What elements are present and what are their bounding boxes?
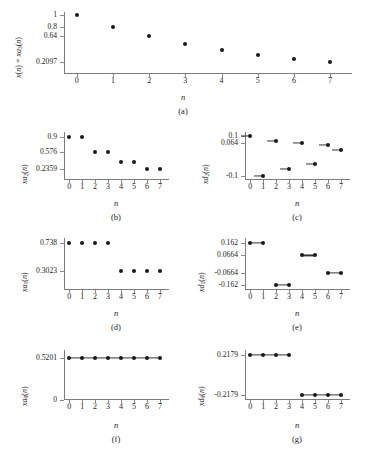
panel-c-y-axis xyxy=(245,132,246,180)
panel-d-datapoint-5 xyxy=(132,269,136,273)
panel-a-datapoint-6 xyxy=(292,57,296,61)
panel-f-xticklabel-7: 7 xyxy=(158,403,162,411)
panel-e-ytick-3 xyxy=(241,285,245,286)
panel-g-datapoint-7 xyxy=(339,393,343,397)
panel-b-datapoint-2 xyxy=(93,150,97,154)
panel-g-ytick-0 xyxy=(241,355,245,356)
panel-b-ytick-0 xyxy=(60,137,64,138)
panel-f-xticklabel-0: 0 xyxy=(67,403,71,411)
panel-e-datapoint-1 xyxy=(261,241,265,245)
panel-c-plot: 012345670.10.064-0.1 xyxy=(245,132,350,180)
panel-d-yticklabel-0: 0.738 xyxy=(40,239,57,247)
panel-e-xticklabel-3: 3 xyxy=(287,293,291,301)
panel-a-datapoint-3 xyxy=(183,42,187,46)
panel-c-xticklabel-2: 2 xyxy=(274,183,278,191)
panel-b-xticklabel-5: 5 xyxy=(132,183,136,191)
panel-e-yticklabel-0: 0.162 xyxy=(221,239,238,247)
panel-g-xticklabel-2: 2 xyxy=(274,403,278,411)
panel-e-xticklabel-0: 0 xyxy=(248,293,252,301)
panel-a-yticklabel-3: 0.2097 xyxy=(36,58,57,66)
panel-c-xticklabel-3: 3 xyxy=(287,183,291,191)
panel-b-datapoint-7 xyxy=(158,167,162,171)
panel-d-datapoint-2 xyxy=(93,241,97,245)
panel-f-datapoint-7 xyxy=(158,356,162,360)
panel-f-xticklabel-4: 4 xyxy=(119,403,123,411)
panel-e: xd1(n) 012345670.1620.0664-0.0664-0.162 … xyxy=(183,230,366,334)
panel-f-yticklabel-0: 0.5201 xyxy=(36,354,57,362)
panel-b: xa2(n) 012345670.90.5760.2359 n (b) xyxy=(0,124,183,224)
panel-d-y-axis xyxy=(64,238,65,290)
panel-g-ytick-1 xyxy=(241,395,245,396)
panel-d-x-axis xyxy=(64,289,169,290)
panel-f-datapoint-3 xyxy=(106,356,110,360)
panel-g-xticklabel-3: 3 xyxy=(287,403,291,411)
panel-b-y-title: xa2(n) xyxy=(20,164,29,184)
panel-g-y-axis xyxy=(245,350,246,400)
panel-a-ytick-3 xyxy=(60,62,64,63)
panel-a-xticklabel-0: 0 xyxy=(75,77,79,85)
panel-c-datapoint-0 xyxy=(248,134,252,138)
panel-a-datapoint-5 xyxy=(256,53,260,57)
panel-c-xticklabel-5: 5 xyxy=(313,183,317,191)
panel-d-y-title: xa1(n) xyxy=(20,272,29,292)
panel-g-datapoint-6 xyxy=(326,393,330,397)
panel-f-datapoint-5 xyxy=(132,356,136,360)
panel-d-xticklabel-6: 6 xyxy=(145,293,149,301)
panel-e-xticklabel-7: 7 xyxy=(339,293,343,301)
panel-e-plot: 012345670.1620.0664-0.0664-0.162 xyxy=(245,238,350,290)
panel-a-ytick-1 xyxy=(60,27,64,28)
panel-c: xd2(n) 012345670.10.064-0.1 n (c) xyxy=(183,124,366,224)
panel-b-plot: 012345670.90.5760.2359 xyxy=(64,132,169,180)
panel-g-datapoint-5 xyxy=(313,393,317,397)
panel-g-yticklabel-1: -0.2179 xyxy=(215,391,238,399)
panel-d-ytick-1 xyxy=(60,271,64,272)
panel-c-y-title: xd2(n) xyxy=(201,164,210,184)
panel-g-xticklabel-1: 1 xyxy=(261,403,265,411)
panel-g-yticklabel-0: 0.2179 xyxy=(217,351,238,359)
panel-b-xticklabel-0: 0 xyxy=(67,183,71,191)
panel-e-datapoint-5 xyxy=(313,253,317,257)
panel-e-xticklabel-6: 6 xyxy=(326,293,330,301)
panel-g-datapoint-2 xyxy=(274,353,278,357)
panel-e-ytick-1 xyxy=(241,255,245,256)
panel-b-datapoint-0 xyxy=(67,135,71,139)
panel-d-datapoint-4 xyxy=(119,269,123,273)
panel-a-xticklabel-3: 3 xyxy=(183,77,187,85)
panel-d-datapoint-3 xyxy=(106,241,110,245)
panel-c-datapoint-2 xyxy=(274,139,278,143)
panel-c-xticklabel-0: 0 xyxy=(248,183,252,191)
panel-a-yticklabel-2: 0.64 xyxy=(44,32,57,40)
panel-c-xticklabel-4: 4 xyxy=(300,183,304,191)
panel-e-yticklabel-3: -0.162 xyxy=(218,281,238,289)
panel-a-yticklabel-1: 0.8 xyxy=(48,23,58,31)
panel-a-xticklabel-2: 2 xyxy=(147,77,151,85)
panel-g-datapoint-0 xyxy=(248,353,252,357)
panel-c-xticklabel-1: 1 xyxy=(261,183,265,191)
panel-b-xticklabel-7: 7 xyxy=(158,183,162,191)
panel-g-segment xyxy=(250,354,289,355)
panel-a-plot: 0123456710.80.640.2097 xyxy=(64,12,352,74)
panel-g-xticklabel-5: 5 xyxy=(313,403,317,411)
panel-d-ytick-0 xyxy=(60,243,64,244)
panel-b-datapoint-3 xyxy=(106,150,110,154)
panel-d-x-label: n xyxy=(114,308,118,318)
panel-d-datapoint-6 xyxy=(145,269,149,273)
figure-root: x(n) = xa3(n) 0123456710.80.640.2097 n (… xyxy=(0,0,366,453)
panel-d-xticklabel-4: 4 xyxy=(119,293,123,301)
panel-f-xticklabel-3: 3 xyxy=(106,403,110,411)
panel-a-ytick-0 xyxy=(60,15,64,16)
panel-f-datapoint-1 xyxy=(80,356,84,360)
panel-c-yticklabel-1: 0.064 xyxy=(221,139,238,147)
panel-e-ytick-0 xyxy=(241,243,245,244)
panel-a-datapoint-7 xyxy=(328,60,332,64)
panel-c-yticklabel-2: -0.1 xyxy=(226,172,238,180)
panel-b-yticklabel-2: 0.2359 xyxy=(36,165,57,173)
panel-b-y-axis xyxy=(64,132,65,180)
panel-f-yticklabel-1: 0 xyxy=(53,396,57,404)
panel-e-yticklabel-2: -0.0664 xyxy=(215,269,238,277)
panel-d-xticklabel-2: 2 xyxy=(93,293,97,301)
panel-e-datapoint-4 xyxy=(300,253,304,257)
panel-b-datapoint-4 xyxy=(119,160,123,164)
panel-c-datapoint-5 xyxy=(313,162,317,166)
panel-d-datapoint-7 xyxy=(158,269,162,273)
